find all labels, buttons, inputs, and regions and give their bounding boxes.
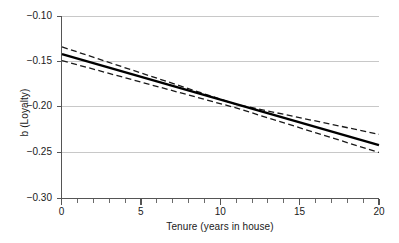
x-tick-label: 10 [205, 206, 235, 217]
x-tick-label: 15 [285, 206, 315, 217]
y-tick-label: −0.30 [6, 192, 52, 203]
x-tick-label: 5 [126, 206, 156, 217]
axis-lines [61, 16, 379, 199]
y-tick-label: −0.10 [6, 10, 52, 21]
x-tick-label: 20 [364, 206, 394, 217]
series-estimated-slope-line [62, 54, 379, 145]
x-tick-label: 0 [47, 206, 77, 217]
x-axis-title: Tenure (years in house) [61, 221, 379, 232]
y-axis-title: b (Loyalty) [19, 53, 30, 173]
series-upper-confidence-line [62, 47, 379, 134]
chart-figure: −0.10 −0.15 −0.20 −0.25 −0.30 0 5 10 15 … [0, 0, 399, 243]
